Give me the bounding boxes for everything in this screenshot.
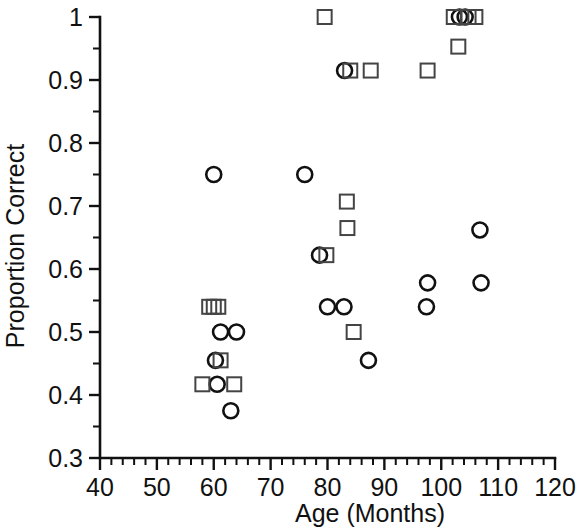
x-axis-ticks: [100, 458, 555, 470]
y-axis-ticks: [89, 17, 100, 458]
x-axis-title: Age (Months): [295, 499, 445, 527]
data-point-circle: [208, 353, 223, 368]
x-tick-label: 120: [534, 473, 576, 501]
data-point-square: [211, 300, 225, 314]
data-point-circle: [320, 299, 335, 314]
data-point-circle: [297, 167, 312, 182]
data-point-circle: [337, 63, 352, 78]
axis-lines: [100, 17, 555, 458]
data-point-circle: [229, 325, 244, 340]
x-tick-label: 90: [370, 473, 398, 501]
data-point-square: [340, 221, 354, 235]
y-tick-label: 0.6: [48, 255, 83, 283]
y-axis-tick-labels: 0.30.40.50.60.70.80.91: [48, 3, 83, 472]
x-tick-label: 50: [143, 473, 171, 501]
data-point-circle: [419, 299, 434, 314]
x-tick-label: 60: [200, 473, 228, 501]
data-point-square: [207, 300, 221, 314]
x-tick-label: 70: [257, 473, 285, 501]
y-tick-label: 0.5: [48, 318, 83, 346]
scatter-plot-figure: 0.30.40.50.60.70.80.91 40506070809010011…: [0, 0, 582, 530]
y-tick-label: 0.8: [48, 129, 83, 157]
data-point-square: [421, 64, 435, 78]
data-point-circle: [336, 299, 351, 314]
data-point-circle: [474, 275, 489, 290]
y-tick-label: 1: [69, 3, 83, 31]
data-point-square: [202, 300, 216, 314]
data-point-square: [364, 64, 378, 78]
data-point-markers: [195, 10, 488, 419]
y-tick-label: 0.9: [48, 66, 83, 94]
data-point-circle: [223, 403, 238, 418]
data-point-circle: [213, 325, 228, 340]
x-tick-label: 80: [314, 473, 342, 501]
y-axis-title: Proportion Correct: [1, 144, 29, 348]
data-point-circle: [210, 377, 225, 392]
data-point-circle: [361, 353, 376, 368]
data-point-square: [347, 325, 361, 339]
plot-canvas: 0.30.40.50.60.70.80.91 40506070809010011…: [0, 0, 582, 530]
data-point-square: [451, 40, 465, 54]
data-point-square: [195, 377, 209, 391]
x-axis-tick-labels: 405060708090100110120: [86, 473, 576, 501]
y-tick-label: 0.7: [48, 192, 83, 220]
y-tick-label: 0.4: [48, 381, 83, 409]
data-point-circle: [206, 167, 221, 182]
data-point-circle: [420, 275, 435, 290]
x-tick-label: 110: [478, 473, 518, 501]
y-tick-label: 0.3: [48, 444, 83, 472]
data-point-square: [318, 10, 332, 24]
data-point-square: [227, 377, 241, 391]
x-tick-label: 100: [420, 473, 462, 501]
x-tick-label: 40: [86, 473, 114, 501]
data-point-circle: [472, 222, 487, 237]
data-point-square: [340, 195, 354, 209]
